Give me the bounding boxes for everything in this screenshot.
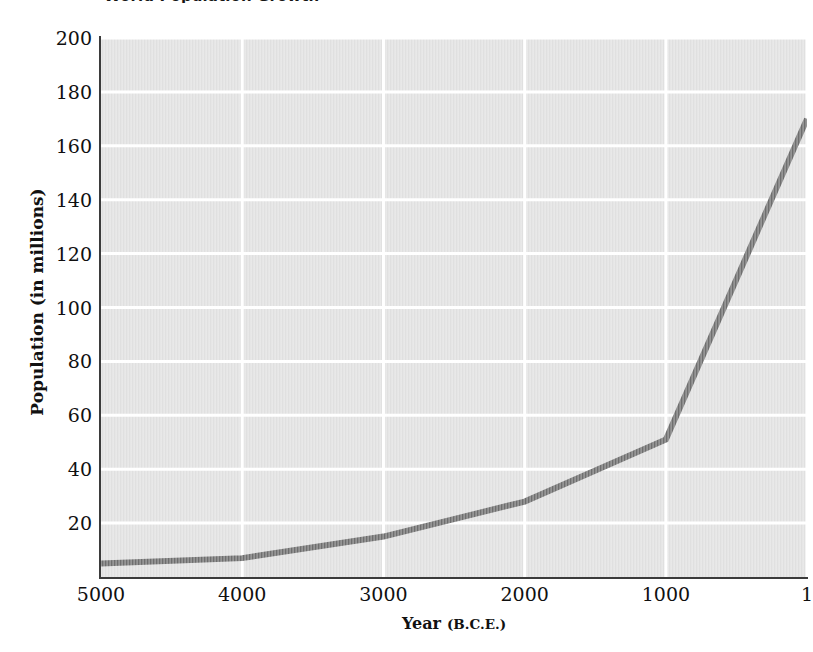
x-axis-tick-label: 1000 [606,583,726,605]
x-axis-title-text: Year [402,614,441,633]
x-axis-tick-label: 2000 [465,583,585,605]
x-axis-title: Year(B.C.E.) [101,614,807,633]
x-axis-tick-label: 5000 [41,583,161,605]
x-axis-tick-label: 3000 [323,583,443,605]
x-axis-tick-labels: 500040003000200010001 [0,0,813,652]
x-axis-title-unit: (B.C.E.) [447,616,506,632]
x-axis-tick-label: 4000 [182,583,302,605]
chart-figure: World Population Growth Population (in m… [0,0,813,652]
x-axis-tick-label: 1 [747,583,813,605]
